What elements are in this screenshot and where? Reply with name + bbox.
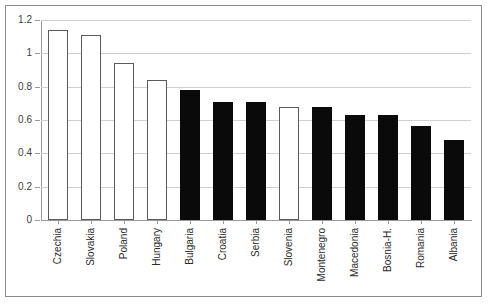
x-axis-label-slot: Macedonia [345, 224, 365, 305]
x-axis-label-slot: Serbia [246, 224, 266, 305]
x-axis-label: Poland [119, 228, 129, 259]
x-axis-label-slot: Slovenia [279, 224, 299, 305]
y-axis-label: 1.2 [18, 15, 32, 25]
x-axis-label-slot: Montenegro [312, 224, 332, 305]
x-axis-label: Macedonia [350, 228, 360, 277]
bar-bulgaria [180, 90, 200, 220]
gridline [41, 53, 471, 54]
x-axis-label: Romania [416, 228, 426, 268]
x-axis-label-slot: Hungary [147, 224, 167, 305]
x-axis-label: Slovakia [86, 228, 96, 266]
bar-serbia [246, 102, 266, 220]
y-axis-tick [35, 153, 40, 154]
bar-slovakia [81, 35, 101, 220]
y-axis-label: 0 [26, 215, 32, 225]
y-axis-tick [35, 220, 40, 221]
x-axis-label: Czechia [53, 228, 63, 264]
y-axis-tick [35, 187, 40, 188]
x-axis-label-slot: Czechia [48, 224, 68, 305]
x-axis-label-slot: Poland [114, 224, 134, 305]
bar-poland [114, 63, 134, 220]
x-axis-label: Hungary [152, 228, 162, 266]
bar-romania [411, 126, 431, 220]
y-axis-label: 0.4 [18, 148, 32, 158]
y-axis-tick [35, 87, 40, 88]
gridline [41, 87, 471, 88]
x-axis-label-slot: Albania [444, 224, 464, 305]
y-axis-tick [35, 120, 40, 121]
y-axis-label: 0.2 [18, 182, 32, 192]
x-axis-label-slot: Bulgaria [180, 224, 200, 305]
bar-bosnia-h [378, 115, 398, 220]
x-axis-label-slot: Romania [411, 224, 431, 305]
bar-albania [444, 140, 464, 220]
x-axis-label: Serbia [251, 228, 261, 257]
x-axis-label: Slovenia [284, 228, 294, 266]
x-axis-label: Croatia [218, 228, 228, 260]
plot-area: 00.20.40.60.811.2CzechiaSlovakiaPolandHu… [41, 20, 471, 220]
y-axis-label: 0.6 [18, 115, 32, 125]
y-axis-tick [35, 53, 40, 54]
y-axis-tick [35, 20, 40, 21]
y-axis-label: 1 [26, 48, 32, 58]
x-axis-label-slot: Slovakia [81, 224, 101, 305]
x-axis-label: Bulgaria [185, 228, 195, 265]
bar-czechia [48, 30, 68, 220]
bar-montenegro [312, 107, 332, 220]
x-axis-label: Albania [449, 228, 459, 261]
gridline [41, 20, 471, 21]
bar-hungary [147, 80, 167, 220]
chart-figure: 00.20.40.60.811.2CzechiaSlovakiaPolandHu… [5, 5, 482, 297]
x-axis-label-slot: Croatia [213, 224, 233, 305]
bar-slovenia [279, 107, 299, 220]
y-axis-label: 0.8 [18, 82, 32, 92]
bar-croatia [213, 102, 233, 220]
bar-macedonia [345, 115, 365, 220]
x-axis-label-slot: Bosnia-H. [378, 224, 398, 305]
x-axis-label: Bosnia-H. [383, 228, 393, 272]
x-axis-label: Montenegro [317, 228, 327, 281]
